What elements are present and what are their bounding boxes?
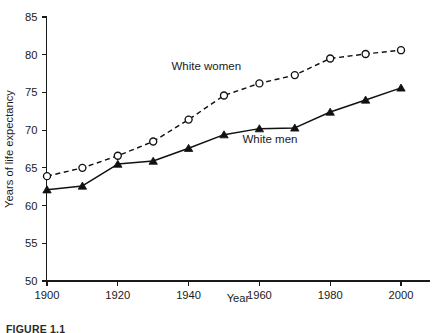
- series-label-white-men: White men: [243, 133, 298, 145]
- chart-axes: [47, 17, 431, 281]
- y-axis-ticks: 5055606570758085: [25, 11, 46, 287]
- data-point-marker-filled-triangle: [397, 84, 405, 91]
- y-tick-label: 50: [25, 275, 37, 287]
- life-expectancy-line-chart: 5055606570758085 19001920194019601980200…: [0, 0, 442, 305]
- data-point-marker-open-circle: [79, 164, 86, 171]
- data-point-marker-open-circle: [150, 138, 157, 145]
- data-point-marker-open-circle: [221, 92, 228, 99]
- data-point-marker-open-circle: [185, 116, 192, 123]
- x-tick-label: 1960: [247, 289, 272, 301]
- x-tick-label: 2000: [389, 289, 414, 301]
- x-tick-label: 1940: [176, 289, 201, 301]
- x-tick-label: 1980: [318, 289, 343, 301]
- data-point-marker-open-circle: [256, 80, 263, 87]
- y-axis-title: Years of life expectancy: [3, 90, 15, 208]
- data-point-marker-open-circle: [398, 47, 405, 54]
- y-tick-label: 85: [25, 11, 37, 23]
- data-point-marker-open-circle: [362, 50, 369, 57]
- x-tick-label: 1920: [105, 289, 130, 301]
- y-tick-label: 75: [25, 86, 37, 98]
- figure-caption: FIGURE 1.1: [6, 323, 65, 333]
- y-tick-label: 60: [25, 200, 37, 212]
- x-axis-ticks: 190019201940196019802000: [35, 281, 414, 301]
- y-tick-label: 80: [25, 49, 37, 61]
- x-tick-label: 1900: [35, 289, 60, 301]
- series-label-white-women: White women: [171, 60, 241, 72]
- data-point-marker-open-circle: [114, 152, 121, 159]
- data-point-marker-open-circle: [327, 55, 334, 62]
- y-tick-label: 65: [25, 162, 37, 174]
- y-tick-label: 55: [25, 237, 37, 249]
- x-axis-title: Year: [227, 292, 250, 304]
- data-point-marker-open-circle: [291, 72, 298, 79]
- y-tick-label: 70: [25, 124, 37, 136]
- series-line-white-men: [47, 88, 401, 190]
- figure-container: 5055606570758085 19001920194019601980200…: [0, 0, 442, 333]
- data-point-marker-open-circle: [44, 173, 51, 180]
